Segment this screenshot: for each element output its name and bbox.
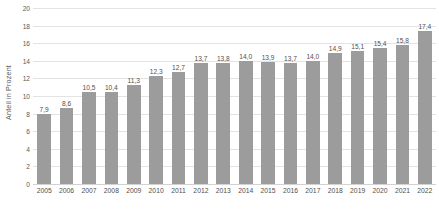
x-axis-tick-label: 2018 — [324, 187, 346, 201]
bar-slot: 13,8 — [212, 8, 234, 184]
bar-slot: 15,4 — [369, 8, 391, 184]
bar-value-label: 8,6 — [62, 100, 71, 107]
bar-slot: 7,9 — [33, 8, 55, 184]
bar — [373, 48, 387, 184]
x-axis-tick-label: 2006 — [55, 187, 77, 201]
bar-value-label: 10,5 — [83, 84, 96, 91]
bar — [328, 53, 342, 184]
x-axis-tick-label: 2020 — [369, 187, 391, 201]
bar-value-label: 14,0 — [306, 53, 319, 60]
y-axis-tick-label: 6 — [26, 128, 30, 135]
x-axis-tick-label: 2016 — [279, 187, 301, 201]
bar — [284, 63, 298, 184]
bar — [149, 76, 163, 184]
bar — [37, 114, 51, 184]
bar — [82, 92, 96, 184]
bar-value-label: 15,4 — [374, 40, 387, 47]
y-axis-tick-label: 18 — [23, 22, 30, 29]
y-axis-tick-labels: 02468101214161820 — [16, 8, 32, 184]
bar-value-label: 13,8 — [217, 55, 230, 62]
y-axis-title-text: Anteil in Prozent — [4, 65, 13, 120]
x-axis-tick-label: 2015 — [257, 187, 279, 201]
bar — [194, 63, 208, 184]
bar — [418, 31, 432, 184]
bar-slot: 13,7 — [190, 8, 212, 184]
bar-value-label: 14,0 — [239, 53, 252, 60]
bar-slot: 10,5 — [78, 8, 100, 184]
plot-area: 7,98,610,510,411,312,312,713,713,814,013… — [33, 8, 436, 184]
y-axis-tick-label: 14 — [23, 57, 30, 64]
x-axis-tick-label: 2019 — [346, 187, 368, 201]
bar-slot: 14,0 — [302, 8, 324, 184]
x-axis-tick-label: 2022 — [414, 187, 436, 201]
x-axis-tick-label: 2005 — [33, 187, 55, 201]
bar-slot: 15,8 — [391, 8, 413, 184]
bar-series: 7,98,610,510,411,312,312,713,713,814,013… — [33, 8, 436, 184]
bar-slot: 12,7 — [167, 8, 189, 184]
bar-slot: 8,6 — [55, 8, 77, 184]
bar-slot: 17,4 — [414, 8, 436, 184]
bar-value-label: 13,7 — [195, 55, 208, 62]
bar — [261, 62, 275, 184]
bar-value-label: 12,7 — [172, 64, 185, 71]
y-axis-tick-label: 0 — [26, 181, 30, 188]
x-axis-tick-label: 2021 — [391, 187, 413, 201]
bar — [216, 63, 230, 184]
x-axis-tick-label: 2008 — [100, 187, 122, 201]
x-axis-tick-label: 2010 — [145, 187, 167, 201]
bar — [60, 108, 74, 184]
bar — [396, 45, 410, 184]
bar-slot: 11,3 — [123, 8, 145, 184]
bar-value-label: 15,1 — [351, 43, 364, 50]
x-axis-tick-label: 2009 — [123, 187, 145, 201]
bar — [306, 61, 320, 184]
bar-value-label: 13,9 — [262, 54, 275, 61]
x-axis-tick-label: 2017 — [302, 187, 324, 201]
y-axis-tick-label: 16 — [23, 40, 30, 47]
bar-value-label: 17,4 — [418, 23, 431, 30]
bar-value-label: 13,7 — [284, 55, 297, 62]
y-axis-tick-label: 4 — [26, 145, 30, 152]
bar — [239, 61, 253, 184]
bar — [351, 51, 365, 184]
y-axis-tick-label: 2 — [26, 163, 30, 170]
bar-slot: 14,0 — [235, 8, 257, 184]
x-axis-tick-label: 2012 — [190, 187, 212, 201]
x-axis-tick-label: 2014 — [235, 187, 257, 201]
bar-slot: 14,9 — [324, 8, 346, 184]
bar — [105, 92, 119, 184]
y-axis-tick-label: 20 — [23, 5, 30, 12]
bar-value-label: 10,4 — [105, 84, 118, 91]
gridline — [33, 184, 436, 185]
bar — [172, 72, 186, 184]
x-axis-tick-label: 2007 — [78, 187, 100, 201]
bar-slot: 13,7 — [279, 8, 301, 184]
bar-value-label: 12,3 — [150, 68, 163, 75]
bar — [127, 85, 141, 184]
y-axis-title: Anteil in Prozent — [0, 0, 16, 185]
x-axis-tick-label: 2013 — [212, 187, 234, 201]
bar-value-label: 14,9 — [329, 45, 342, 52]
bar-value-label: 7,9 — [40, 106, 49, 113]
bar-slot: 15,1 — [346, 8, 368, 184]
y-axis-tick-label: 8 — [26, 110, 30, 117]
x-axis-tick-labels: 2005200620072008200920102011201220132014… — [33, 187, 436, 201]
y-axis-tick-label: 12 — [23, 75, 30, 82]
x-axis-tick-label: 2011 — [167, 187, 189, 201]
bar-slot: 12,3 — [145, 8, 167, 184]
bar-chart: Anteil in Prozent 02468101214161820 7,98… — [0, 0, 439, 217]
bar-slot: 13,9 — [257, 8, 279, 184]
y-axis-tick-label: 10 — [23, 93, 30, 100]
bar-slot: 10,4 — [100, 8, 122, 184]
bar-value-label: 11,3 — [128, 77, 140, 84]
bar-value-label: 15,8 — [396, 37, 409, 44]
